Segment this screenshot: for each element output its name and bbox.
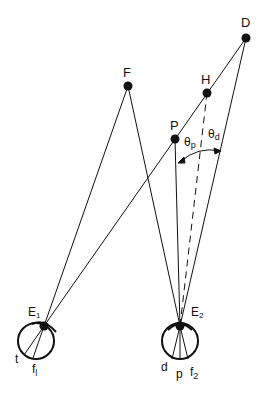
label-f2: f2 xyxy=(190,365,198,381)
label-f1: fl xyxy=(32,362,37,378)
line-e2-d xyxy=(180,38,246,326)
left-retina-t xyxy=(24,326,44,355)
binocular-diagram: D F H P θp θd E1 E2 t fl d p f2 xyxy=(0,0,259,402)
arc-arrow-left xyxy=(178,157,185,163)
left-retina-f1 xyxy=(33,326,44,358)
label-d: D xyxy=(241,15,250,30)
label-f: F xyxy=(123,65,131,80)
line-e1-f xyxy=(44,86,128,326)
label-d-retina: d xyxy=(161,360,168,374)
point-d xyxy=(242,34,251,43)
node-e2 xyxy=(176,322,185,331)
label-e1: E1 xyxy=(28,305,41,320)
label-h: H xyxy=(201,72,210,87)
right-retina-d xyxy=(172,326,180,359)
label-theta-p: θp xyxy=(184,135,196,150)
point-f xyxy=(124,82,133,91)
left-eye xyxy=(18,323,54,359)
label-e2: E2 xyxy=(191,305,204,320)
point-h xyxy=(203,89,212,98)
right-retina-f2 xyxy=(180,326,188,359)
line-e2-h-dashed xyxy=(180,93,207,326)
label-p-retina: p xyxy=(176,367,183,381)
node-e1 xyxy=(40,322,49,331)
line-e2-p xyxy=(175,139,180,326)
point-p xyxy=(171,135,180,144)
label-theta-d: θd xyxy=(208,127,220,142)
label-t: t xyxy=(15,352,19,366)
label-p: P xyxy=(170,118,179,133)
line-e1-d xyxy=(44,38,246,326)
